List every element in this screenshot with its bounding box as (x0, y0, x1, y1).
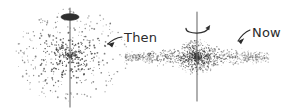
cloud-dot (24, 51, 25, 52)
cloud-dot (179, 65, 180, 66)
cloud-dot (193, 48, 194, 49)
cloud-dot (27, 60, 28, 61)
cloud-dot (136, 55, 137, 56)
cloud-dot (232, 62, 233, 63)
cloud-dot (211, 62, 212, 63)
cloud-dot (80, 42, 81, 43)
cloud-dot (71, 50, 72, 51)
cloud-dot (71, 94, 72, 95)
cloud-dot (93, 60, 94, 61)
cloud-dot (229, 56, 230, 57)
cloud-dot (149, 56, 150, 57)
cloud-dot (147, 53, 149, 55)
cloud-dot (150, 59, 151, 60)
cloud-dot (142, 55, 143, 56)
cloud-dot (74, 51, 76, 53)
cloud-dot (216, 57, 217, 58)
cloud-dot (233, 53, 234, 54)
cloud-dot (214, 58, 215, 59)
cloud-dot (93, 45, 95, 47)
cloud-dot (26, 73, 28, 75)
cloud-dot (242, 55, 243, 56)
cloud-dot (55, 82, 56, 83)
cloud-dot (153, 53, 155, 55)
cloud-dot (209, 55, 210, 56)
cloud-dot (248, 53, 249, 54)
cloud-dot (227, 59, 228, 60)
cloud-dot (90, 51, 91, 52)
cloud-dot (172, 61, 173, 62)
cloud-dot (67, 53, 68, 54)
cloud-dot (48, 34, 49, 35)
cloud-dot (195, 49, 196, 50)
cloud-dot (83, 63, 84, 64)
cloud-dot (68, 52, 69, 53)
cloud-dot (190, 64, 191, 65)
cloud-dot (53, 71, 54, 72)
cloud-dot (166, 54, 167, 55)
cloud-dot (94, 47, 96, 49)
cloud-dot (189, 52, 190, 53)
cloud-dot (192, 59, 193, 60)
cloud-dot (62, 63, 63, 64)
cloud-dot (142, 56, 143, 57)
cloud-dot (98, 40, 99, 41)
cloud-dot (190, 42, 192, 44)
cloud-dot (40, 18, 41, 19)
cloud-dot (202, 57, 203, 58)
cloud-dot (180, 60, 181, 61)
cloud-dot (178, 62, 179, 63)
cloud-dot (38, 81, 39, 82)
cloud-dot (109, 29, 110, 30)
cloud-dot (135, 57, 136, 58)
cloud-dot (210, 69, 211, 70)
cloud-dot (76, 77, 78, 79)
cloud-dot (254, 57, 255, 58)
cloud-dot (44, 42, 46, 44)
cloud-dot (117, 71, 119, 73)
cloud-dot (74, 53, 76, 55)
cloud-dot (182, 48, 183, 49)
cloud-dot (194, 59, 195, 60)
cloud-dot (79, 65, 81, 67)
cloud-dot (215, 64, 216, 65)
cloud-dot (234, 60, 235, 61)
cloud-dot (145, 58, 146, 59)
cloud-dot (248, 54, 249, 55)
label-then: Then (124, 31, 157, 44)
cloud-dot (128, 53, 129, 54)
cloud-dot (254, 52, 255, 53)
cloud-dot (59, 54, 60, 55)
cloud-dot (53, 28, 54, 29)
cloud-dot (171, 51, 172, 52)
cloud-dot (237, 63, 238, 64)
cloud-dot (18, 52, 19, 53)
cloud-dot (125, 62, 126, 63)
cloud-dot (58, 69, 59, 70)
cloud-dot (224, 59, 225, 60)
cloud-dot (167, 54, 168, 55)
cloud-dot (52, 39, 53, 40)
cloud-dot (184, 55, 185, 56)
cloud-dot (207, 58, 208, 59)
cloud-dot (167, 62, 168, 63)
cloud-dot (228, 53, 229, 54)
cloud-dot (53, 85, 55, 87)
cloud-dot (73, 11, 74, 12)
cloud-dot (189, 55, 190, 56)
cloud-dot (71, 48, 72, 49)
cloud-dot (233, 60, 234, 61)
cloud-dot (242, 52, 243, 53)
cloud-dot (81, 43, 82, 44)
cloud-dot (57, 96, 59, 98)
cloud-dot (212, 51, 214, 53)
cloud-dot (208, 52, 209, 53)
cloud-dot (263, 55, 265, 57)
cloud-dot (78, 46, 80, 48)
cloud-dot (136, 54, 137, 55)
cloud-dot (112, 31, 113, 32)
cloud-dot (146, 55, 147, 56)
cloud-dot (183, 66, 184, 67)
cloud-dot (214, 49, 216, 51)
cloud-dot (174, 54, 175, 55)
